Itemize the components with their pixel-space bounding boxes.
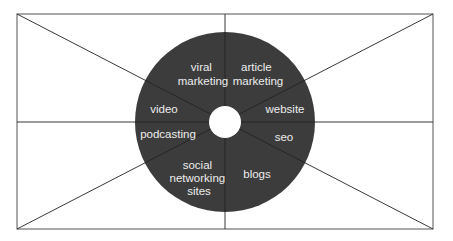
segment-label-website: website	[265, 103, 305, 115]
segment-label-blogs: blogs	[243, 168, 271, 180]
marketing-channels-diagram: viral marketing article marketing websit…	[0, 0, 453, 241]
segment-label-podcasting: podcasting	[140, 128, 196, 140]
segment-label-video: video	[150, 103, 178, 115]
segment-label-seo: seo	[275, 131, 294, 143]
center-hub	[209, 106, 241, 138]
